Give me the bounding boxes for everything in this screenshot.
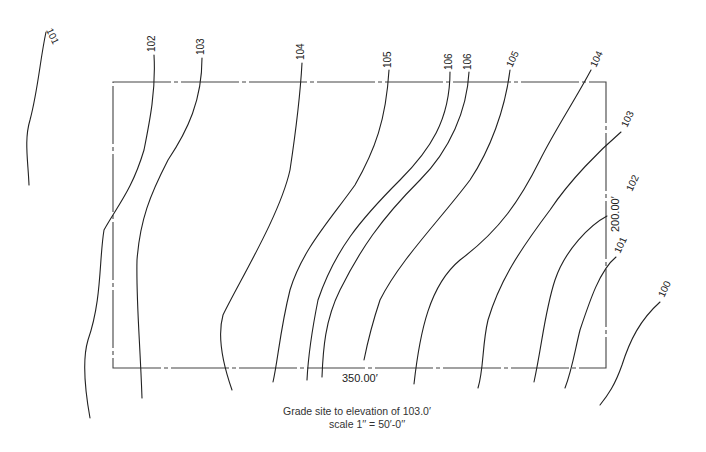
grade-note: Grade site to elevation of 103.0′ [283,404,431,418]
site-width-dimension: 350.00′ [342,372,378,384]
site-grading-plan: 101102103104105106106105104103102101100 … [0,0,706,452]
contour-label-103: 103 [619,109,636,129]
contour-line-100 [600,302,660,405]
contour-label-102: 102 [624,173,641,193]
contour-labels: 101102103104105106106105104103102101100 [44,26,673,299]
contour-label-105: 105 [382,51,393,68]
contour-label-104: 104 [588,49,605,69]
contour-line-101 [27,32,46,185]
contour-line-106 [322,72,469,377]
contour-line-103 [478,132,621,388]
contour-label-101: 101 [44,26,61,46]
contour-label-101: 101 [612,235,629,255]
contour-label-102: 102 [146,35,157,52]
contour-label-100: 100 [656,279,673,299]
contour-label-104: 104 [295,43,306,60]
scale-note: scale 1′′ = 50′-0′′ [329,417,405,431]
contour-label-106: 106 [462,53,473,70]
contour-line-104 [220,63,302,390]
contour-line-104 [414,70,591,384]
contour-label-103: 103 [195,38,206,55]
contour-line-105 [273,70,389,382]
contour-label-106: 106 [443,53,454,70]
contour-lines [27,32,660,418]
contour-label-105: 105 [504,49,521,69]
site-depth-dimension: 200.00′ [609,196,621,232]
contour-line-105 [364,70,510,360]
contour-line-102 [534,216,607,382]
contour-line-102 [85,55,155,418]
contour-line-103 [137,58,202,398]
